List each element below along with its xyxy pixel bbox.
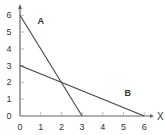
x-tick-label: 0 [17, 122, 22, 132]
labels: XAB [37, 16, 164, 122]
label-a: A [37, 16, 44, 26]
x-tick-label: 4 [100, 122, 105, 132]
y-tick-label: 3 [6, 61, 11, 71]
x-tick-label: 3 [80, 122, 85, 132]
x-tick-label: 6 [142, 122, 147, 132]
ticks: 01234560123456 [6, 10, 146, 132]
y-axis-arrow-icon [18, 4, 22, 9]
y-tick-label: 4 [6, 44, 11, 54]
chart: 01234560123456 XAB [0, 0, 165, 135]
line-a [20, 15, 82, 116]
y-tick-label: 6 [6, 10, 11, 20]
label-b: B [124, 88, 131, 98]
series-lines [20, 15, 144, 116]
y-tick-label: 0 [6, 111, 11, 121]
x-axis-arrow-icon [150, 114, 154, 118]
y-tick-label: 1 [6, 94, 11, 104]
chart-svg: 01234560123456 XAB [0, 0, 165, 135]
y-tick-label: 2 [6, 77, 11, 87]
x-axis-label: X [157, 111, 164, 122]
x-tick-label: 5 [121, 122, 126, 132]
y-tick-label: 5 [6, 27, 11, 37]
x-tick-label: 2 [59, 122, 64, 132]
x-tick-label: 1 [38, 122, 43, 132]
